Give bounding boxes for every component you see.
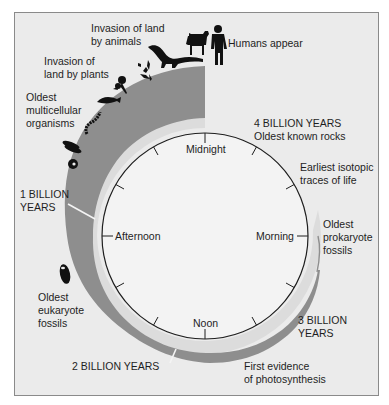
- human-silhouette-icon: [211, 25, 227, 65]
- label-earliest-isotopic: Earliest isotopic traces of life: [300, 161, 374, 187]
- label-humans-appear: Humans appear: [228, 37, 303, 50]
- label-four-billion-years: 4 BILLION YEARS Oldest known rocks: [254, 117, 346, 143]
- fern-plant-icon: [138, 60, 152, 81]
- dinosaur-silhouette-icon: [148, 45, 203, 68]
- dog-silhouette-icon: [186, 31, 209, 55]
- eukaryote-cell-icon: [58, 263, 72, 285]
- label-first-photosynthesis: First evidence of photosynthesis: [244, 360, 326, 386]
- flowering-plant-icon: [113, 76, 127, 94]
- clock-label-midnight: Midnight: [186, 143, 226, 155]
- label-oldest-prokaryote: Oldest prokaryote fossils: [323, 218, 373, 257]
- label-invasion-plants: Invasion of land by plants: [44, 55, 109, 81]
- label-two-billion-years: 2 BILLION YEARS: [72, 360, 159, 373]
- label-invasion-animals: Invasion of land by animals: [91, 22, 165, 48]
- label-three-billion-years: 3 BILLION YEARS: [298, 314, 347, 340]
- clock-label-noon: Noon: [193, 317, 218, 329]
- label-oldest-multicellular: Oldest multicellular organisms: [26, 91, 81, 130]
- clock-label-afternoon: Afternoon: [115, 230, 161, 242]
- clock-label-morning: Morning: [256, 230, 294, 242]
- label-oldest-eukaryote: Oldest eukaryote fossils: [38, 291, 84, 330]
- jellyfish-disc-icon: [68, 159, 78, 169]
- label-one-billion-years: 1 BILLION YEARS: [20, 188, 69, 214]
